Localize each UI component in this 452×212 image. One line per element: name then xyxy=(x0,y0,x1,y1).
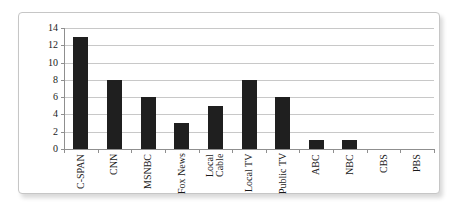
x-category-label: Local Cable xyxy=(205,154,225,194)
plot-area xyxy=(64,28,434,149)
y-axis-tick xyxy=(61,45,64,46)
x-axis-line xyxy=(64,149,435,150)
x-label-box: CBS xyxy=(367,154,401,194)
bar-abc xyxy=(309,140,324,149)
x-axis-tick xyxy=(367,150,368,153)
x-axis-tick xyxy=(131,150,132,153)
x-label-box: Public TV xyxy=(266,154,300,194)
y-tick-label: 8 xyxy=(19,75,58,85)
screenshot-canvas: { "chart_data": { "type": "bar", "title"… xyxy=(0,0,452,212)
x-axis-tick xyxy=(400,150,401,153)
x-axis-tick xyxy=(266,150,267,153)
x-axis-tick xyxy=(333,150,334,153)
y-tick-label: 4 xyxy=(19,109,58,119)
chart-panel: 02468101214C-SPANCNNMSNBCFox NewsLocal C… xyxy=(18,12,440,194)
y-axis-tick xyxy=(61,132,64,133)
y-axis-tick xyxy=(61,97,64,98)
y-tick-label: 12 xyxy=(19,40,58,50)
x-axis-tick xyxy=(232,150,233,153)
x-label-box: CNN xyxy=(98,154,132,194)
x-category-label: CNN xyxy=(109,154,119,194)
x-category-label: Fox News xyxy=(177,154,187,194)
y-axis-tick xyxy=(61,114,64,115)
x-axis-tick xyxy=(165,150,166,153)
bar-msnbc xyxy=(141,97,156,149)
y-axis-tick xyxy=(61,28,64,29)
y-tick-label: 10 xyxy=(19,58,58,68)
x-label-box: MSNBC xyxy=(131,154,165,194)
x-category-label: CBS xyxy=(379,154,389,194)
gridline xyxy=(64,45,434,46)
x-label-box: NBC xyxy=(333,154,367,194)
x-category-label: MSNBC xyxy=(143,154,153,194)
gridline xyxy=(64,28,434,29)
x-label-box: Local TV xyxy=(232,154,266,194)
x-category-label: Local TV xyxy=(244,154,254,194)
y-axis-tick xyxy=(61,63,64,64)
gridline xyxy=(64,63,434,64)
bar-c-span xyxy=(73,37,88,149)
bar-local-cable xyxy=(208,106,223,149)
x-label-box: ABC xyxy=(299,154,333,194)
x-axis-tick xyxy=(434,150,435,153)
x-category-label: Public TV xyxy=(278,154,288,194)
x-label-box: Fox News xyxy=(165,154,199,194)
x-axis-tick xyxy=(299,150,300,153)
y-tick-label: 0 xyxy=(19,144,58,154)
bar-local-tv xyxy=(242,80,257,149)
bar-nbc xyxy=(342,140,357,149)
x-label-box: C-SPAN xyxy=(64,154,98,194)
y-axis-line xyxy=(64,28,65,150)
y-tick-label: 2 xyxy=(19,127,58,137)
x-axis-tick xyxy=(199,150,200,153)
x-category-label: NBC xyxy=(345,154,355,194)
y-axis-tick xyxy=(61,80,64,81)
x-category-label: ABC xyxy=(311,154,321,194)
bar-fox-news xyxy=(174,123,189,149)
x-label-box: Local Cable xyxy=(199,154,233,194)
x-category-label: PBS xyxy=(412,154,422,194)
x-category-label: C-SPAN xyxy=(76,154,86,194)
y-tick-label: 14 xyxy=(19,23,58,33)
bar-public-tv xyxy=(275,97,290,149)
y-tick-label: 6 xyxy=(19,92,58,102)
x-axis-tick xyxy=(98,150,99,153)
x-label-box: PBS xyxy=(400,154,434,194)
bar-cnn xyxy=(107,80,122,149)
x-axis-tick xyxy=(64,150,65,153)
